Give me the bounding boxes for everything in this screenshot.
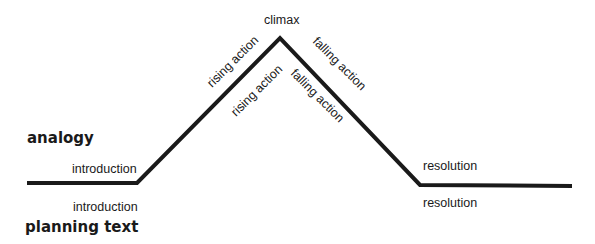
plot-diagram: analogy planning text introduction intro… xyxy=(0,0,595,244)
rising-action-label-bottom: rising action xyxy=(228,62,285,119)
planning-text-heading: planning text xyxy=(25,218,138,236)
introduction-label-bottom: introduction xyxy=(73,200,138,214)
introduction-label-top: introduction xyxy=(72,162,137,176)
analogy-heading: analogy xyxy=(27,129,94,147)
resolution-label-top: resolution xyxy=(423,159,477,173)
falling-action-label-top: falling action xyxy=(310,34,369,93)
climax-label: climax xyxy=(264,13,300,27)
rising-action-label-top: rising action xyxy=(204,33,261,90)
resolution-label-bottom: resolution xyxy=(423,196,477,210)
